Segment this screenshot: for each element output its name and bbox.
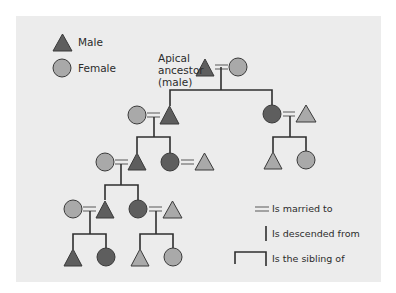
- key-sibling-label: Is the sibling of: [272, 253, 345, 265]
- male-triangle-icon: [195, 153, 214, 170]
- female-circle-icon: [161, 153, 179, 171]
- kinship-diagram: .dk { fill: #5e5e5e; stroke: #3a3a3a; st…: [0, 0, 396, 293]
- male-triangle-icon: [96, 201, 114, 218]
- male-triangle-icon: [128, 153, 146, 170]
- legend-female-label: Female: [78, 62, 116, 74]
- male-triangle-icon: [160, 106, 179, 124]
- apical-label-line1: Apical: [158, 52, 190, 64]
- male-triangle-icon: [64, 249, 82, 266]
- female-circle-icon: [128, 106, 146, 124]
- female-circle-icon: [297, 151, 315, 169]
- apical-label-line3: (male): [158, 76, 192, 88]
- legend-male-triangle-icon: [53, 34, 72, 51]
- male-triangle-icon: [131, 249, 149, 266]
- female-circle-icon: [96, 153, 114, 171]
- key-married-label: Is married to: [272, 203, 333, 215]
- sibling-symbol-icon: [235, 252, 266, 266]
- male-triangle-icon: [264, 152, 282, 169]
- female-circle-icon: [97, 248, 115, 266]
- gen4-left-couple: [64, 200, 114, 218]
- key-descended-label: Is descended from: [272, 228, 360, 240]
- legend-male-label: Male: [78, 36, 103, 48]
- apical-label-line2: ancestor: [158, 64, 204, 76]
- female-circle-icon: [229, 58, 247, 76]
- female-circle-icon: [129, 200, 147, 218]
- female-circle-icon: [263, 105, 281, 123]
- male-triangle-icon: [163, 201, 182, 218]
- gen3-right-couple: [161, 153, 214, 171]
- female-circle-icon: [64, 200, 82, 218]
- male-triangle-icon: [296, 105, 316, 122]
- legend-female-circle-icon: [53, 59, 71, 77]
- female-circle-icon: [164, 248, 182, 266]
